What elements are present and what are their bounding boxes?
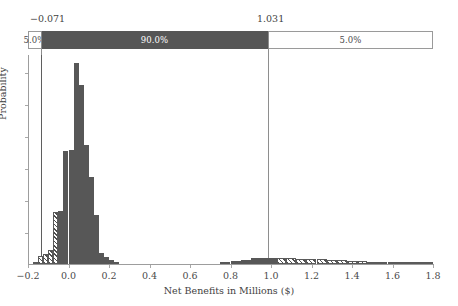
lower-bound-connector [41, 31, 42, 55]
x-axis-tick-label: 1.8 [425, 270, 440, 281]
ci-segment-upper-tail: 5.0% [268, 31, 433, 49]
x-axis-tick-label: 1.6 [385, 270, 400, 281]
x-axis-tick [190, 265, 191, 268]
x-axis-tick-label: 1.2 [304, 270, 319, 281]
ci-segment-upper-label: 5.0% [340, 35, 362, 45]
y-axis-tick [25, 233, 28, 234]
x-axis-tick [433, 265, 434, 268]
x-axis-tick-label: 0.0 [61, 270, 76, 281]
y-axis-tick [25, 137, 28, 138]
x-axis-tick [231, 265, 232, 268]
x-axis-label: Net Benefits in Millions ($) [0, 285, 458, 296]
x-axis-tick-label: 0.2 [101, 270, 116, 281]
lower-bound-label: −0.071 [30, 13, 65, 24]
upper-bound-label: 1.031 [257, 13, 284, 24]
ci-segment-lower-tail: 5.0% [28, 31, 41, 49]
y-axis-tick [25, 169, 28, 170]
x-axis-tick-label: 1.4 [344, 270, 359, 281]
x-axis-tick [271, 265, 272, 268]
x-axis-tick [312, 265, 313, 268]
x-axis-tick-label: −0.2 [16, 270, 39, 281]
credible-interval-bar: 5.0% 90.0% 5.0% [28, 31, 433, 49]
x-axis-tick [393, 265, 394, 268]
reference-line-lower [41, 55, 42, 264]
y-axis-tick [25, 73, 28, 74]
ci-segment-central: 90.0% [41, 31, 268, 49]
upper-bound-connector [268, 31, 269, 55]
x-axis-tick-label: 0.8 [223, 270, 238, 281]
reference-line-upper [268, 55, 269, 264]
x-axis-tick [28, 265, 29, 268]
x-axis-tick-label: 0.4 [142, 270, 157, 281]
y-axis-tick [25, 105, 28, 106]
y-axis-label: Probability [0, 67, 8, 120]
histogram-figure: 5.0% 90.0% 5.0% −0.071 1.031 [0, 0, 458, 306]
x-axis-tick-label: 0.6 [182, 270, 197, 281]
x-axis-tick [109, 265, 110, 268]
x-axis-tick [352, 265, 353, 268]
x-axis-tick [69, 265, 70, 268]
x-axis-tick-label: 1.0 [263, 270, 278, 281]
x-axis-tick [150, 265, 151, 268]
ci-segment-central-label: 90.0% [141, 35, 169, 45]
plot-area [28, 55, 433, 264]
y-axis-line [28, 55, 29, 265]
y-axis-tick [25, 201, 28, 202]
